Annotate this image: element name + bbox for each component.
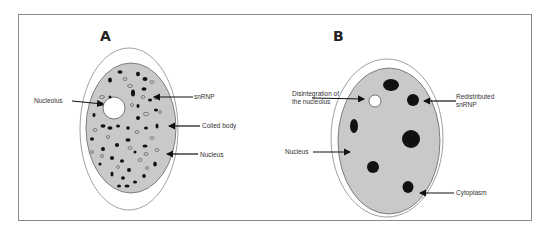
nucleus-a bbox=[86, 63, 176, 193]
label-disintegration-2: the nucleolus bbox=[292, 98, 331, 105]
label-nucleolus: Nucleolus bbox=[34, 97, 63, 104]
label-nucleus-a: Nucleus bbox=[200, 151, 224, 158]
label-cytoplasm: Cytoplasm bbox=[456, 189, 487, 197]
cell-diagram: A bbox=[0, 0, 550, 232]
panel-label-a: A bbox=[100, 28, 111, 44]
label-nucleus-b: Nucleus bbox=[285, 148, 309, 155]
nucleolus-a bbox=[103, 97, 125, 119]
label-redistributed-1: Redistributed bbox=[456, 93, 495, 100]
label-snrnp: snRNP bbox=[194, 93, 215, 100]
nucleolus-b bbox=[369, 95, 381, 107]
label-disintegration-1: Disintegration of bbox=[292, 90, 339, 98]
label-coiled-body: Coiled body bbox=[202, 122, 237, 130]
label-redistributed-2: snRNP bbox=[456, 101, 477, 108]
cell-a bbox=[80, 48, 178, 210]
panel-label-b: B bbox=[333, 28, 344, 44]
